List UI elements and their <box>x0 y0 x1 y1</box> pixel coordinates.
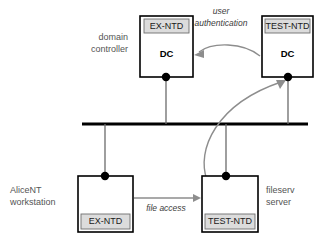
dc-left-node-dot <box>162 73 170 81</box>
label-fileserv-server: fileserv server <box>266 185 295 207</box>
dc-left-band-label: EX-NTD <box>150 21 184 31</box>
dc-right-band-label: TEST-NTD <box>266 21 310 31</box>
workstation-label-line-1: AliceNT <box>10 185 42 195</box>
network-diagram: EX-NTD DC TEST-NTD DC EX-NTD TEST-NTD <box>0 0 327 238</box>
user-authentication-label-line-1: user <box>213 6 231 16</box>
domain-controller-label-line-2: controller <box>91 44 128 54</box>
fileserver-band-label: TEST-NTD <box>208 216 252 226</box>
file-access-arrowhead <box>193 194 201 202</box>
user-authentication-label-line-2: authentication <box>195 18 248 28</box>
fileserver-label-line-2: server <box>266 197 291 207</box>
node-dc-left[interactable]: EX-NTD DC <box>140 16 193 81</box>
fileserver-node-dot <box>222 172 230 180</box>
dc-right-node-dot <box>284 73 292 81</box>
diagram-canvas: EX-NTD DC TEST-NTD DC EX-NTD TEST-NTD <box>0 0 327 238</box>
dc-right-role-label: DC <box>281 48 295 59</box>
workstation-band-label: EX-NTD <box>89 216 123 226</box>
node-fileserver[interactable]: TEST-NTD <box>202 172 258 232</box>
label-domain-controller: domain controller <box>91 32 128 54</box>
workstation-label-line-2: workstation <box>9 197 56 207</box>
domain-controller-label-line-1: domain <box>98 32 128 42</box>
fileserver-label-line-1: fileserv <box>266 185 295 195</box>
fileserver-to-dc-arrow <box>204 82 281 180</box>
user-authentication-arrow <box>199 45 260 56</box>
file-access-label: file access <box>146 203 186 213</box>
label-alicent-workstation: AliceNT workstation <box>9 185 56 207</box>
fileserver-to-dc-arrowhead <box>276 80 286 89</box>
label-user-authentication: user authentication <box>195 6 248 28</box>
node-dc-right[interactable]: TEST-NTD DC <box>262 16 313 81</box>
dc-left-role-label: DC <box>160 48 174 59</box>
workstation-node-dot <box>101 172 109 180</box>
node-workstation[interactable]: EX-NTD <box>78 172 133 232</box>
